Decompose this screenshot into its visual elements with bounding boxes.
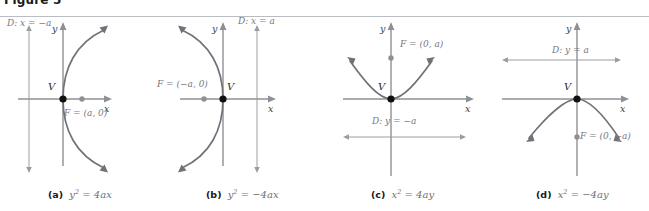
directrix-label-c: D: y = −a <box>372 116 416 126</box>
x-axis-c <box>343 96 474 103</box>
panel-c: F = (0, a) V D: y = −a x y (c) x2 = 4ay <box>328 0 488 211</box>
panel-d: D: y = a V F = (0, −a) x y (d) x2 = −4ay <box>488 0 649 211</box>
vertex-label-c: V <box>378 81 385 92</box>
directrix-line-c <box>343 134 466 140</box>
x-axis-label-c: x <box>465 103 470 114</box>
x-axis-b <box>180 96 276 103</box>
focus-point-b <box>201 96 206 101</box>
y-axis-label-d: y <box>566 23 571 34</box>
focus-point-a <box>79 96 84 101</box>
y-axis-label-b: y <box>212 23 217 34</box>
y-axis-label-c: y <box>380 23 385 34</box>
directrix-label-b: D: x = a <box>238 16 275 26</box>
vertex-point-c <box>387 95 394 102</box>
caption-equation-a: y2 = 4ax <box>66 189 112 200</box>
caption-b: (b) y2 = −4ax <box>206 188 279 200</box>
directrix-line-d <box>502 57 621 63</box>
x-axis-label-d: x <box>620 103 625 114</box>
caption-label-d: (d) <box>536 189 551 200</box>
focus-point-c <box>388 55 393 60</box>
vertex-label-a: V <box>48 81 55 92</box>
vertex-label-b: V <box>227 81 234 92</box>
vertex-point-b <box>219 95 226 102</box>
panel-a-graph <box>0 0 163 211</box>
caption-a: (a) y2 = 4ax <box>48 188 112 200</box>
caption-equation-c: x2 = 4ay <box>388 189 434 200</box>
focus-point-d <box>574 134 579 139</box>
panel-c-graph <box>328 0 488 211</box>
y-axis-label-a: y <box>52 23 57 34</box>
caption-label-c: (c) <box>371 189 385 200</box>
caption-equation-b: y2 = −4ax <box>225 189 279 200</box>
figure-container: Figure 5 <box>0 0 649 211</box>
vertex-point-d <box>573 95 580 102</box>
caption-label-b: (b) <box>206 189 221 200</box>
panel-b-graph <box>163 0 328 211</box>
panel-a: D: x = −a V F = (a, 0) x y (a) y2 = 4ax <box>0 0 163 211</box>
focus-label-c: F = (0, a) <box>400 39 443 49</box>
x-axis-label-a: x <box>104 103 109 114</box>
caption-label-a: (a) <box>48 189 63 200</box>
x-axis-label-b: x <box>268 103 273 114</box>
focus-label-d: F = (0, −a) <box>580 131 631 141</box>
caption-c: (c) x2 = 4ay <box>371 188 434 200</box>
directrix-label-a: D: x = −a <box>7 18 51 28</box>
directrix-label-d: D: y = a <box>552 45 589 55</box>
panel-b: D: x = a V F = (−a, 0) x y (b) y2 = −4ax <box>163 0 328 211</box>
focus-label-a: F = (a, 0) <box>64 108 107 118</box>
vertex-label-d: V <box>564 81 571 92</box>
caption-equation-d: x2 = −4ay <box>555 189 609 200</box>
caption-d: (d) x2 = −4ay <box>536 188 609 200</box>
x-axis-d <box>502 96 629 103</box>
vertex-point-a <box>59 95 66 102</box>
focus-label-b: F = (−a, 0) <box>157 79 208 89</box>
